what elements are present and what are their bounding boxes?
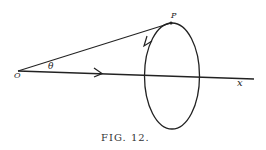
origin-label: O [14, 71, 21, 80]
angle-label: θ [48, 61, 54, 71]
x-axis-line [18, 71, 254, 79]
op-line [18, 23, 171, 71]
point-p-label: P [170, 11, 177, 20]
axis-x-label: x [237, 77, 243, 88]
figure-caption: FIG. 12. [101, 132, 150, 143]
point-p-dot [169, 21, 172, 24]
axis-arrow-icon [94, 68, 102, 77]
figure-diagram: O θ P x FIG. 12. [0, 0, 266, 150]
